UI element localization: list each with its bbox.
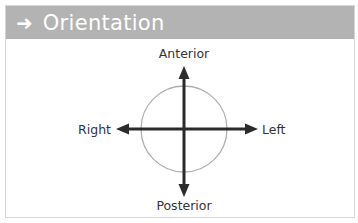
label-right: Right xyxy=(78,122,111,137)
label-posterior: Posterior xyxy=(156,198,212,213)
arrow-right-icon xyxy=(245,124,258,135)
label-left: Left xyxy=(262,122,286,137)
arrow-left-icon xyxy=(116,124,129,135)
label-anterior: Anterior xyxy=(159,46,210,61)
arrow-down-icon xyxy=(179,184,190,197)
arrow-up-icon xyxy=(179,66,190,79)
orientation-diagram: Anterior Posterior Right Left xyxy=(0,0,358,223)
